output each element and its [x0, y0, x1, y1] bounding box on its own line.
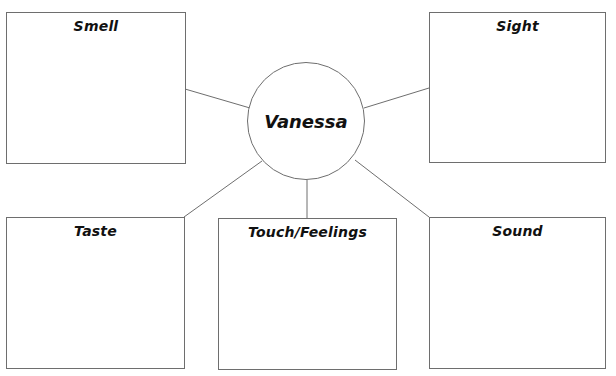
sight-label: Sight: [430, 18, 605, 34]
smell-label: Smell: [7, 18, 185, 34]
connector-sight: [364, 88, 429, 108]
connector-sound: [355, 160, 429, 217]
taste-label: Taste: [7, 223, 184, 239]
taste-box[interactable]: Taste: [6, 217, 185, 369]
touch-feelings-label: Touch/Feelings: [219, 224, 396, 240]
connector-smell: [185, 89, 250, 108]
sound-label: Sound: [430, 223, 605, 239]
senses-diagram: Smell Sight Taste Touch/Feelings Sound V…: [0, 0, 616, 376]
smell-box[interactable]: Smell: [6, 12, 186, 164]
touch-feelings-box[interactable]: Touch/Feelings: [218, 218, 397, 370]
sight-box[interactable]: Sight: [429, 12, 606, 163]
sound-box[interactable]: Sound: [429, 217, 606, 369]
connector-taste: [184, 161, 262, 217]
center-topic-circle: Vanessa: [247, 62, 365, 180]
center-topic-label: Vanessa: [264, 111, 347, 132]
